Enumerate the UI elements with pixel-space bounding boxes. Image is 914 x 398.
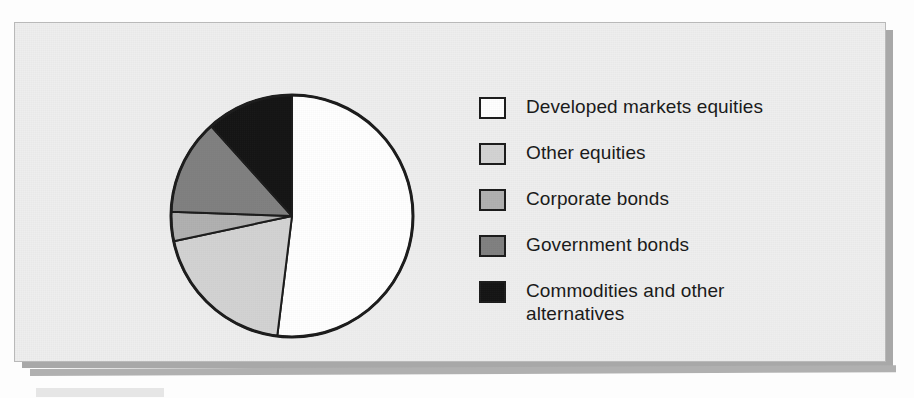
- legend-label-government-bonds: Government bonds: [526, 233, 689, 256]
- scan-artifact-smudge: [36, 388, 164, 397]
- scanned-page: Developed markets equities Other equitie…: [0, 0, 914, 398]
- legend-item-commodities-and-other-alternatives[interactable]: Commodities and other alternatives: [479, 279, 839, 325]
- pie-chart-svg: [155, 81, 435, 355]
- legend-swatch-corporate-bonds: [479, 189, 506, 211]
- legend-label-commodities-and-other-alternatives: Commodities and other alternatives: [526, 279, 725, 325]
- legend-swatch-commodities-and-other-alternatives: [479, 281, 506, 303]
- pie-slice-developed-markets-equities[interactable]: [277, 95, 413, 337]
- legend-label-developed-markets-equities: Developed markets equities: [526, 95, 763, 118]
- legend-swatch-other-equities: [479, 143, 506, 165]
- chart-legend: Developed markets equities Other equitie…: [479, 95, 839, 325]
- legend-item-developed-markets-equities[interactable]: Developed markets equities: [479, 95, 839, 141]
- legend-swatch-government-bonds: [479, 235, 506, 257]
- pie-chart: [155, 81, 435, 355]
- legend-swatch-developed-markets-equities: [479, 97, 506, 119]
- legend-item-corporate-bonds[interactable]: Corporate bonds: [479, 187, 839, 233]
- figure-frame: Developed markets equities Other equitie…: [14, 22, 886, 362]
- frame-shadow-right: [886, 30, 893, 368]
- legend-item-government-bonds[interactable]: Government bonds: [479, 233, 839, 279]
- legend-label-corporate-bonds: Corporate bonds: [526, 187, 669, 210]
- legend-item-other-equities[interactable]: Other equities: [479, 141, 839, 187]
- legend-label-other-equities: Other equities: [526, 141, 646, 164]
